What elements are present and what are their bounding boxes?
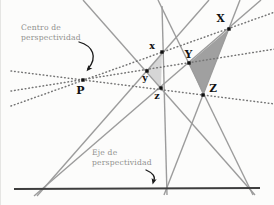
axis-label-line1: Eje de <box>92 148 152 158</box>
center-label-line1: Centro de <box>21 23 81 33</box>
axis-label-line2: perspectividad <box>92 158 152 168</box>
point-marker-P <box>81 78 84 81</box>
point-label-Y: Y <box>184 48 193 60</box>
center-label-line2: perspectividad <box>21 33 81 43</box>
point-marker-Y <box>187 61 190 64</box>
center-of-perspectivity-label: Centro de perspectividad <box>21 23 81 44</box>
axis-of-perspectivity-label: Eje de perspectividad <box>92 148 152 169</box>
triangle-xyz <box>147 52 162 88</box>
point-label-y: y <box>141 72 148 83</box>
point-label-P: P <box>76 84 84 97</box>
perspectivity-ray-y <box>11 49 274 91</box>
point-label-x: x <box>149 40 155 51</box>
center-label-arrow-head <box>85 65 93 73</box>
point-marker-z <box>159 86 162 89</box>
axis-of-perspectivity-line <box>14 188 260 189</box>
axis-layer <box>14 188 260 189</box>
axis-label-arrow-head <box>150 178 157 185</box>
perspectivity-diagram: PxyzXYZ Centro de perspectividad Eje de … <box>0 0 274 205</box>
side-line-YZ <box>158 0 253 195</box>
point-marker-X <box>227 27 230 30</box>
axis-label-arrow <box>146 170 154 181</box>
point-label-X: X <box>216 12 225 24</box>
point-marker-Z <box>201 93 204 96</box>
point-marker-x <box>160 50 163 53</box>
side-line-xz <box>162 6 167 195</box>
center-label-arrow <box>79 42 93 69</box>
point-label-Z: Z <box>209 82 217 94</box>
point-label-z: z <box>154 90 160 101</box>
